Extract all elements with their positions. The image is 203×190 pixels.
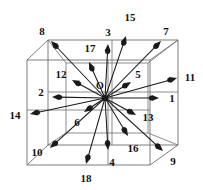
vector-node-7 <box>153 44 158 49</box>
vector-node-17 <box>90 66 95 71</box>
vector-label-2: 2 <box>38 87 44 98</box>
vector-node-9 <box>155 143 160 148</box>
vector-label-3: 3 <box>105 27 111 38</box>
vector-node-5 <box>122 83 127 88</box>
vector-label-13: 13 <box>143 112 154 123</box>
vector-label-14: 14 <box>10 110 21 121</box>
vector-shaft-7 <box>105 45 157 98</box>
vector-node-15 <box>121 41 126 46</box>
vector-node-12 <box>76 81 81 86</box>
vector-node-16 <box>122 127 127 132</box>
vector-label-16: 16 <box>128 143 139 154</box>
origin-node <box>102 95 108 101</box>
vector-node-10 <box>53 140 58 145</box>
origin-label: O <box>96 81 104 91</box>
vector-label-18: 18 <box>81 173 92 184</box>
vector-label-15: 15 <box>125 12 136 23</box>
vector-shaft-4 <box>105 98 108 144</box>
cube-gridline <box>148 133 178 145</box>
vector-label-17: 17 <box>85 43 96 54</box>
vector-node-2 <box>57 95 62 100</box>
vector-label-7: 7 <box>163 26 169 37</box>
vector-label-6: 6 <box>74 117 80 128</box>
vector-label-9: 9 <box>170 156 176 167</box>
vector-node-13 <box>127 109 132 114</box>
vector-node-11 <box>167 78 172 83</box>
vector-node-18 <box>86 154 91 159</box>
vector-label-5: 5 <box>135 69 141 80</box>
lattice-velocity-figure: 123456789101112131415161718O <box>0 0 203 190</box>
vector-label-11: 11 <box>185 72 195 83</box>
vector-node-1 <box>149 96 154 101</box>
vector-label-8: 8 <box>39 26 45 37</box>
vector-node-8 <box>54 44 59 49</box>
vector-label-4: 4 <box>109 157 115 168</box>
vector-label-1: 1 <box>169 93 175 104</box>
vector-shaft-11 <box>105 80 171 98</box>
vector-node-3 <box>105 49 110 54</box>
vector-label-12: 12 <box>56 69 67 80</box>
vector-shaft-2 <box>58 97 105 98</box>
cube-edge <box>27 40 48 60</box>
vector-node-4 <box>105 140 110 145</box>
vector-label-10: 10 <box>32 147 43 158</box>
cube-gridline <box>148 40 178 63</box>
vector-node-14 <box>35 110 40 115</box>
